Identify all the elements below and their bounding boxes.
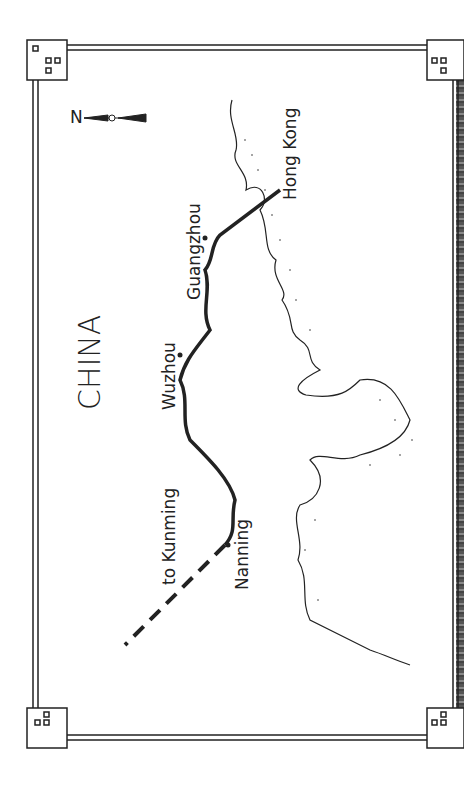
place-label-hong-kong: Hong Kong: [280, 108, 300, 200]
compass-north-arrow-icon: [84, 114, 146, 122]
map-canvas: N CHINA Hong Kong Guangzhou Wuzhou Nanni…: [0, 0, 464, 785]
coastline: [230, 100, 410, 665]
compass-n-label: N: [70, 107, 83, 127]
place-label-wuzhou: Wuzhou: [159, 342, 179, 410]
place-label-to-kunming: to Kunming: [159, 488, 179, 585]
place-label-guangzhou: Guangzhou: [184, 203, 204, 300]
city-marker-nanning: [226, 543, 231, 548]
place-label-nanning: Nanning: [232, 519, 252, 590]
coastal-stipple: [244, 139, 413, 601]
country-label: CHINA: [72, 315, 107, 410]
